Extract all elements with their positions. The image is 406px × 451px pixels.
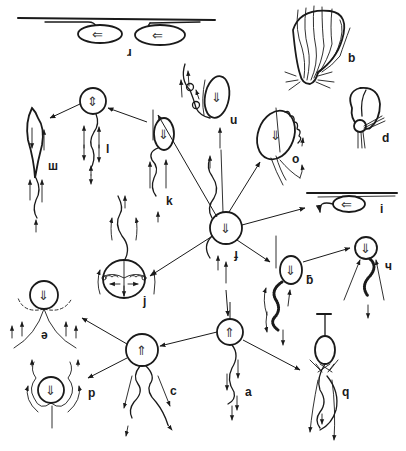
left-arrow-glyph: ⇐ <box>92 27 103 42</box>
panel-d: d <box>350 88 389 148</box>
down-arrow-glyph: ⇓ <box>211 90 222 105</box>
panel-g: ⇓ ƃ <box>264 236 313 345</box>
label-l: l <box>106 142 109 156</box>
down-arrow-glyph: ⇓ <box>285 263 296 278</box>
label-e: ə <box>41 328 48 342</box>
panel-u: ⇓ u <box>181 64 237 148</box>
down-arrow-glyph: ⇓ <box>220 221 231 236</box>
label-o: o <box>292 152 299 166</box>
label-m: ш <box>48 159 58 173</box>
flagellate-locomotion-diagram: ⇐ ⇐ ɹ b d ⇓ <box>0 0 406 451</box>
label-b: b <box>348 51 355 65</box>
panel-k: ⇓ k <box>150 110 174 222</box>
label-r: ɹ <box>127 45 132 59</box>
up-arrow-glyph: ⇑ <box>224 325 235 340</box>
down-arrow-glyph: ⇓ <box>360 241 371 256</box>
label-a: a <box>245 385 252 399</box>
panel-j: j <box>98 196 155 308</box>
label-f: ɟ <box>234 247 238 261</box>
left-arrow-glyph: ⇐ <box>341 197 352 212</box>
label-d: d <box>382 131 389 145</box>
panel-f-central: ⇓ ɟ <box>206 150 242 283</box>
up-arrow-glyph: ⇑ <box>136 343 147 358</box>
down-arrow-glyph: ⇓ <box>38 288 49 303</box>
label-p: p <box>88 386 95 400</box>
down-arrow-glyph: ⇓ <box>45 383 56 398</box>
label-k: k <box>166 194 173 208</box>
panel-l: ⇕ l <box>80 88 109 184</box>
panel-a: ⇑ a <box>217 319 252 420</box>
panel-e: ⇓ ə <box>12 281 76 348</box>
panel-c: ⇑ c <box>124 334 177 436</box>
label-i: i <box>380 202 383 216</box>
down-arrow-glyph: ⇓ <box>158 127 169 142</box>
left-arrow-glyph: ⇐ <box>152 28 163 43</box>
panel-o: ⇓ o <box>251 105 303 185</box>
panel-m: ш <box>27 108 58 232</box>
panel-r: ⇐ ⇐ ɹ <box>18 18 215 59</box>
label-q: q <box>342 385 349 399</box>
label-c: c <box>170 384 177 398</box>
panel-p: ⇓ p <box>27 360 95 428</box>
panel-b: b <box>285 6 355 90</box>
label-u: u <box>230 113 237 127</box>
updown-arrow-glyph: ⇕ <box>87 94 98 109</box>
label-h: ч <box>385 259 392 273</box>
connector-arrows <box>50 104 350 378</box>
panel-h: ⇓ ч <box>344 237 392 318</box>
panel-i: ⇐ i <box>307 193 397 216</box>
label-g: ƃ <box>306 273 313 287</box>
panel-q: q <box>310 314 349 440</box>
label-j: j <box>142 294 146 308</box>
